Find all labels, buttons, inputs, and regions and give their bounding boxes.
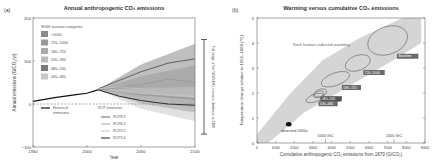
x-tick-label: 5000 <box>346 146 354 150</box>
y-tick-label: 100 <box>24 59 32 64</box>
legend-category-label: 720–1000 <box>51 41 68 45</box>
legend-swatch <box>41 65 48 71</box>
panel-a: (a)Annual anthropogenic CO₂ emissions195… <box>4 5 215 160</box>
x-tick-label: 7000 <box>383 146 391 150</box>
x-tick-label: 8000 <box>402 146 410 150</box>
x-tick-label: 2050 <box>136 149 146 154</box>
x-tick-label: 1000 <box>271 146 279 150</box>
ellipse-label: 720–1000 <box>365 71 380 75</box>
panel-b-label: (b) <box>232 7 238 13</box>
y-tick-label: 1 <box>252 116 255 121</box>
legend-swatch <box>41 74 48 80</box>
y-axis-label: Annual emissions (GtCO₂/yr) <box>12 53 17 111</box>
panel-b-title: Warming versus cumulative CO₂ emissions <box>283 5 398 11</box>
x-tick-label: 2000 <box>82 149 92 154</box>
x-tick-label: 2100 <box>190 149 200 154</box>
y-tick-label: 5 <box>252 16 255 21</box>
warming-band <box>257 18 421 143</box>
observed-label: observed 2000s <box>281 129 308 133</box>
historical-line <box>33 90 98 102</box>
chart-canvas: (a)Annual anthropogenic CO₂ emissions195… <box>0 0 437 166</box>
legend-rcp-label: RCP4.5 <box>113 129 126 133</box>
y-tick-label: 0 <box>29 102 32 107</box>
legend-rcp-label: RCP8.5 <box>113 115 126 119</box>
legend-swatch <box>41 40 48 46</box>
legend-rcp-label: RCP2.6 <box>113 136 126 140</box>
legend-swatch <box>41 48 48 54</box>
y-tick-label: 3 <box>252 66 255 71</box>
legend-swatch <box>41 31 48 37</box>
x-tick-label: 4000 <box>327 146 335 150</box>
x-tick-label: 1950 <box>28 149 38 154</box>
legend-categories-title: WGIII scenario categories: <box>41 25 83 29</box>
panel-b: (b)Warming versus cumulative CO₂ emissio… <box>232 5 429 157</box>
legend-category-label: 580–720 <box>51 50 66 54</box>
y-tick-label: −100 <box>22 145 32 150</box>
ellipse-label: 480–530 <box>322 97 335 101</box>
x-tick-label: 9000 <box>421 146 429 150</box>
y-tick-label: 0 <box>252 141 255 146</box>
y-axis-label: Temperature change relative to 1861–1880… <box>239 35 244 126</box>
y-tick-label: 200 <box>24 16 32 21</box>
panel-a-label: (a) <box>4 7 10 13</box>
x-tick-label: 0 <box>256 146 258 150</box>
y-tick-label: 4 <box>252 41 255 46</box>
svg-text:emissions: emissions <box>53 111 69 115</box>
panel-a-title: Annual anthropogenic CO₂ emissions <box>64 5 165 11</box>
x-axis-label: Year <box>109 155 119 160</box>
ellipse-label: Baseline <box>398 54 411 58</box>
ellipse-label: 430–480 <box>320 102 333 106</box>
x-axis-label: Cumulative anthropogenic CO₂ emissions f… <box>280 152 403 157</box>
legend-rcp-title: RCP scenarios: <box>98 106 123 110</box>
gtc-marker-label: 1000 GtC <box>317 134 334 138</box>
y-tick-label: 2 <box>252 91 255 96</box>
legend-category-label: 480–530 <box>51 67 66 71</box>
scenario-range-label: Full range of the WGIII AR5 scenario dat… <box>211 46 215 128</box>
observed-marker <box>286 122 292 126</box>
gtc-marker-label: 2000 GtC <box>386 134 403 138</box>
legend-rcp-label: RCP6.0 <box>113 122 126 126</box>
legend-category-label: 530–580 <box>51 58 66 62</box>
legend-historical-label: Historical <box>53 106 68 110</box>
legend-category-label: 430–480 <box>51 75 66 79</box>
figure: (a)Annual anthropogenic CO₂ emissions195… <box>0 0 437 166</box>
legend-swatch <box>41 57 48 63</box>
x-tick-label: 3000 <box>309 146 317 150</box>
x-tick-label: 6000 <box>365 146 373 150</box>
band-label: Total human-induced warming <box>292 42 350 47</box>
ellipse-label: 580–720 <box>343 86 356 90</box>
legend-category-label: >1000 <box>51 33 62 37</box>
x-tick-label: 2000 <box>290 146 298 150</box>
